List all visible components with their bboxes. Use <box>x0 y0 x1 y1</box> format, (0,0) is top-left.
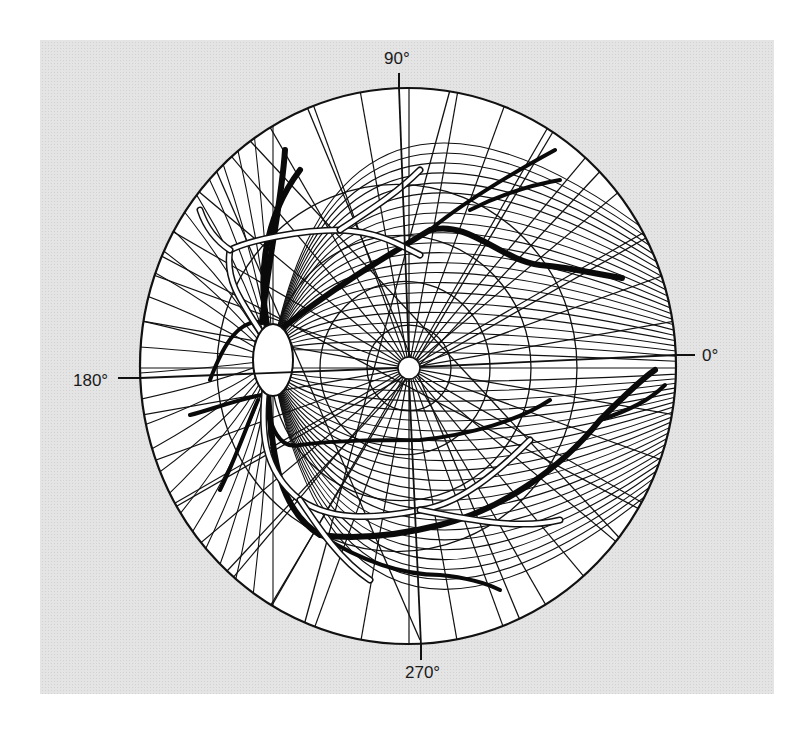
label-90: 90° <box>384 49 410 68</box>
label-0: 0° <box>702 346 718 365</box>
optic-disc <box>253 324 293 396</box>
retina-diagram: 90° 180° 0° 270° <box>0 0 809 736</box>
fovea <box>398 357 420 379</box>
label-180: 180° <box>73 371 108 390</box>
label-270: 270° <box>405 663 440 682</box>
